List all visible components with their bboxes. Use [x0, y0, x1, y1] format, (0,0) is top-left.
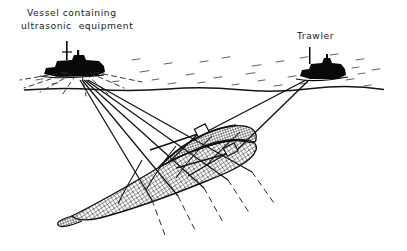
label-vessel-line1: Vessel containing: [27, 7, 117, 18]
label-vessel-line2: ultrasonic equipment: [21, 20, 133, 31]
label-trawler: Trawler: [296, 30, 334, 41]
illustration-canvas: Vessel containing ultrasonic equipment T…: [0, 0, 407, 251]
trawl-diagram-svg: Vessel containing ultrasonic equipment T…: [0, 0, 407, 251]
mast: [66, 41, 68, 60]
trawler-mast: [309, 47, 311, 64]
